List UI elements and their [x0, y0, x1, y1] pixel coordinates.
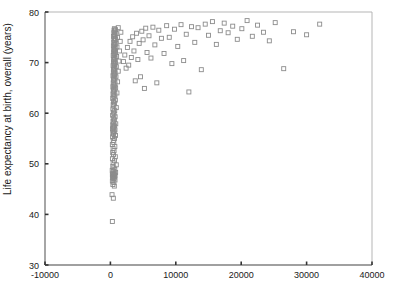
plot-canvas: -10000010000200003000040000 304050607080… — [0, 0, 394, 306]
x-tick-label: 20000 — [229, 270, 254, 280]
x-tick-label: 10000 — [163, 270, 188, 280]
figure-background — [0, 0, 394, 306]
y-tick-label: 30 — [29, 261, 39, 271]
x-tick-label: 40000 — [359, 270, 384, 280]
x-tick-label: -10000 — [31, 270, 59, 280]
y-axis-title: Life expectancy at birth, overall (years… — [2, 23, 13, 195]
y-tick-label: 80 — [29, 8, 39, 18]
y-tick-label: 60 — [29, 109, 39, 119]
x-tick-label: 30000 — [294, 270, 319, 280]
y-tick-label: 40 — [29, 210, 39, 220]
y-tick-label: 70 — [29, 58, 39, 68]
scatter-plot-figure: -10000010000200003000040000 304050607080… — [0, 0, 394, 306]
x-tick-label: 0 — [108, 270, 113, 280]
y-tick-label: 50 — [29, 159, 39, 169]
